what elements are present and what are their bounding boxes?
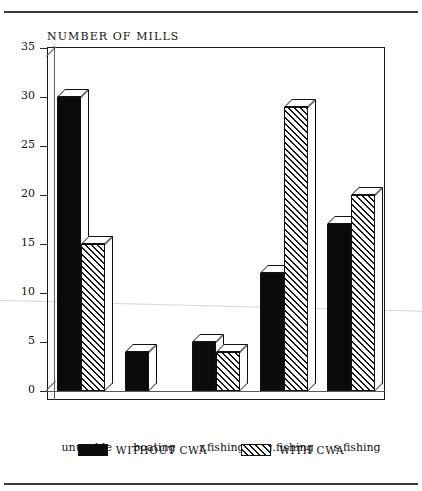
bar-group [250,47,318,400]
bar-face [57,97,81,391]
bar-side-face [240,344,248,391]
y-axis-tick-label: 25 [21,138,35,151]
page-rule-bottom [4,483,418,485]
y-axis-tick-mark [40,48,47,49]
bar-face [125,352,149,391]
bar-face [192,342,216,391]
bar-without-cwa [125,352,149,391]
chart-title: NUMBER OF MILLS [47,30,179,43]
bar-face [216,352,240,391]
y-axis-tick-mark [40,146,47,147]
bar-chart-figure: NUMBER OF MILLS 05101520253035 unusableb… [0,14,422,482]
legend-swatch-without-cwa [78,444,108,456]
bar-groups [47,47,385,400]
page-rule-top [4,11,418,13]
y-axis-tick-mark [40,342,47,343]
bar-face [260,273,284,391]
legend-entry: WITH CWA [241,444,344,456]
bar-side-face [149,344,157,391]
bar-with-cwa [351,195,375,391]
y-axis-tick-label: 5 [28,334,35,347]
y-axis-tick-mark [40,97,47,98]
y-axis-tick-label: 15 [21,236,35,249]
y-axis-tick-label: 35 [21,40,35,53]
bar-face [81,244,105,391]
chart-legend: WITHOUT CWAWITH CWA [0,444,422,456]
bar-face [327,224,351,391]
bar-without-cwa [57,97,81,391]
bar-without-cwa [327,224,351,391]
bar-group [47,47,115,400]
bar-group [317,47,385,400]
y-axis-tick-mark [40,391,47,392]
legend-label: WITH CWA [279,444,344,456]
bar-side-face [375,187,383,391]
bar-with-cwa [81,244,105,391]
bar-side-face [308,99,316,391]
y-axis-tick-label: 10 [21,285,35,298]
plot-area: 05101520253035 unusableboatingr.fishingg… [47,47,385,400]
bar-group [115,47,183,400]
bar-side-face [105,236,113,391]
y-axis-tick-label: 0 [28,383,35,396]
legend-swatch-with-cwa [241,444,271,456]
bar-with-cwa [216,352,240,391]
bar-face [351,195,375,391]
y-axis-tick-label: 20 [21,187,35,200]
legend-entry: WITHOUT CWA [78,444,207,456]
y-axis-tick-mark [40,293,47,294]
bar-without-cwa [260,273,284,391]
legend-label: WITHOUT CWA [116,444,207,456]
bar-group [182,47,250,400]
y-axis-tick-mark [40,195,47,196]
y-axis-tick-label: 30 [21,89,35,102]
y-axis-tick-mark [40,244,47,245]
bar-with-cwa [284,107,308,391]
bar-face [284,107,308,391]
bar-without-cwa [192,342,216,391]
